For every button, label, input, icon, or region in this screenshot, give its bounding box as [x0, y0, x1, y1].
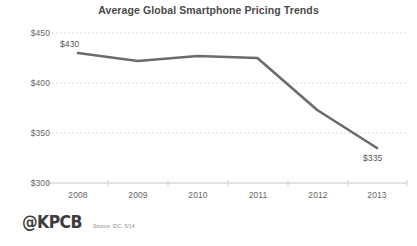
plot-area: $450 $400 $350 $300 $430 $335 [0, 0, 417, 200]
kpcb-brand-logo: @KPCB [22, 214, 82, 231]
y-tick-350: $350 [10, 128, 50, 138]
x-axis-labels: 2008 2009 2010 2011 2012 2013 [0, 190, 417, 206]
chart-container: Average Global Smartphone Pricing Trends [0, 0, 417, 246]
y-axis-labels: $450 $400 $350 $300 [10, 0, 50, 200]
x-tick-2012: 2012 [288, 190, 348, 200]
y-tick-300: $300 [10, 178, 50, 188]
annotation-last-point: $335 [363, 153, 382, 163]
x-tick-2009: 2009 [108, 190, 168, 200]
data-series-line [78, 53, 377, 148]
source-note: Source: IDC, 5/14 [93, 224, 134, 231]
x-tick-2013: 2013 [347, 190, 407, 200]
x-tick-2011: 2011 [228, 190, 288, 200]
annotation-first-point: $430 [60, 39, 79, 49]
chart-plot-svg [0, 0, 417, 200]
y-tick-450: $450 [10, 28, 50, 38]
y-tick-400: $400 [10, 78, 50, 88]
chart-footer: @KPCB Source: IDC, 5/14 [22, 214, 135, 231]
x-tick-2010: 2010 [168, 190, 228, 200]
x-tick-2008: 2008 [48, 190, 108, 200]
